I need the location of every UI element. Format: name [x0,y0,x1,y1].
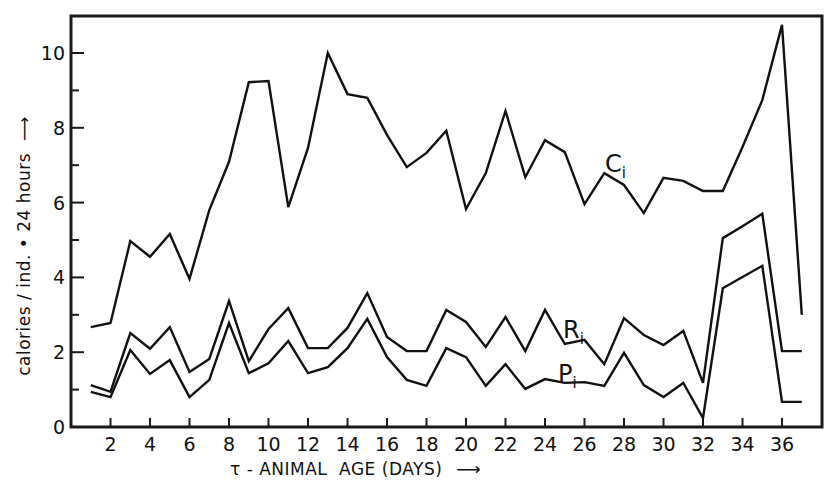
y-axis-title: calories / ind. • 24 hours ⟶ [14,116,34,376]
y-tick-label: 6 [53,192,65,214]
y-tick-label: 0 [53,416,65,438]
x-axis-title-text: τ - ANIMAL AGE (DAYS) ⟶ [230,459,481,479]
x-tick-label: 36 [770,433,794,455]
y-tick-label: 8 [53,117,65,139]
y-axis-label: calories / ind. • 24 hours [14,153,34,376]
series-label-pi: Pi [558,360,577,392]
x-tick-label: 2 [104,433,116,455]
series-line-pi [91,266,802,418]
x-tick-label: 4 [144,433,156,455]
series-line-ci [91,25,802,327]
x-tick-label: 24 [533,433,557,455]
x-tick-label: 10 [256,433,280,455]
plot-border [71,16,822,427]
x-axis-ticks: 24681012141618202224262830323436 [104,418,794,455]
series-label-ci: Ci [605,150,626,182]
x-tick-label: 28 [612,433,636,455]
line-chart: 0246810 24681012141618202224262830323436… [0,0,837,488]
x-tick-label: 26 [572,433,596,455]
plot-frame [71,16,822,427]
x-tick-label: 32 [691,433,715,455]
y-axis-title-text: calories / ind. • 24 hours ⟶ [14,116,34,376]
x-tick-label: 30 [651,433,675,455]
x-tick-label: 12 [296,433,320,455]
y-tick-label: 4 [53,266,65,288]
x-tick-label: 34 [730,433,754,455]
series-labels: CiRiPi [558,150,626,392]
y-axis-arrow-icon: ⟶ [14,116,34,141]
series-line-ri [91,214,802,392]
x-axis-arrow-icon: ⟶ [456,459,481,479]
x-tick-label: 22 [493,433,517,455]
x-tick-label: 16 [375,433,399,455]
x-axis-label: τ - ANIMAL AGE (DAYS) [230,459,442,479]
x-tick-label: 18 [414,433,438,455]
x-tick-label: 14 [335,433,359,455]
series-lines [91,25,802,418]
x-tick-label: 6 [183,433,195,455]
series-label-ri: Ri [563,316,584,348]
x-tick-label: 8 [223,433,235,455]
y-tick-label: 10 [41,42,65,64]
y-tick-label: 2 [53,341,65,363]
x-tick-label: 20 [454,433,478,455]
x-axis-title: τ - ANIMAL AGE (DAYS) ⟶ [230,459,481,479]
y-axis-ticks: 0246810 [41,42,84,438]
